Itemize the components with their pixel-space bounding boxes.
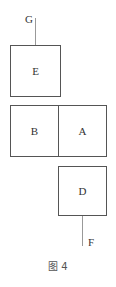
box-label-d: D	[59, 186, 106, 197]
terminal-line-g	[35, 18, 36, 45]
terminal-label-g: G	[24, 14, 34, 25]
box-b: B	[10, 105, 59, 157]
box-label-e: E	[11, 66, 60, 77]
box-label-b: B	[11, 126, 58, 137]
box-d: D	[58, 166, 107, 216]
box-e: E	[10, 45, 61, 97]
figure-caption: 图 4	[48, 258, 68, 273]
box-a: A	[58, 105, 107, 157]
terminal-label-f: F	[86, 237, 96, 248]
terminal-line-f	[82, 216, 83, 246]
box-label-a: A	[59, 126, 106, 137]
